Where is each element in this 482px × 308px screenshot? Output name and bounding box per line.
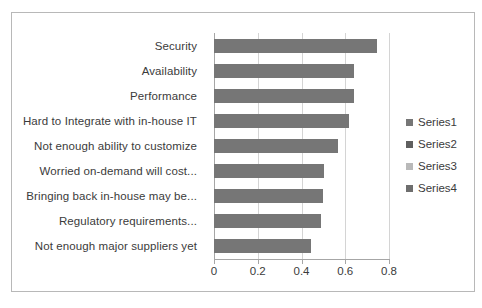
category-label: Bringing back in-house may be...	[12, 184, 203, 209]
value-axis-ticks	[214, 259, 389, 264]
category-axis: SecurityAvailabilityPerformanceHard to I…	[12, 33, 203, 259]
tick-mark	[258, 259, 259, 264]
bar-row	[214, 133, 389, 158]
category-label: Performance	[12, 83, 203, 108]
bar	[214, 189, 323, 203]
legend-item[interactable]: Series4	[406, 177, 474, 199]
tick-mark	[302, 259, 303, 264]
bar-row	[214, 209, 389, 234]
value-axis-tick-label: 0.8	[381, 265, 397, 277]
chart-plot-wrapper: SecurityAvailabilityPerformanceHard to I…	[12, 13, 474, 291]
category-label: Not enough major suppliers yet	[12, 234, 203, 259]
legend-item[interactable]: Series1	[406, 111, 474, 133]
legend-label: Series4	[418, 182, 457, 194]
bar	[214, 214, 321, 228]
value-axis-tick-label: 0.2	[250, 265, 266, 277]
bar-row	[214, 108, 389, 133]
legend-swatch-icon	[406, 163, 413, 170]
bar	[214, 164, 324, 178]
bar	[214, 39, 377, 53]
category-label: Hard to Integrate with in-house IT	[12, 108, 203, 133]
legend-item[interactable]: Series2	[406, 133, 474, 155]
legend-label: Series3	[418, 160, 457, 172]
category-label: Security	[12, 33, 203, 58]
legend-label: Series1	[418, 116, 457, 128]
bar	[214, 114, 349, 128]
bar	[214, 64, 354, 78]
bar-row	[214, 33, 389, 58]
value-axis-labels: 00.20.40.60.8	[214, 265, 389, 283]
bar	[214, 239, 311, 253]
tick-mark	[389, 259, 390, 264]
legend-label: Series2	[418, 138, 457, 150]
bar-row	[214, 159, 389, 184]
legend-swatch-icon	[406, 119, 413, 126]
bar	[214, 139, 338, 153]
bar-row	[214, 83, 389, 108]
value-axis-tick-label: 0.4	[294, 265, 310, 277]
plot-area	[214, 33, 389, 259]
bar	[214, 89, 354, 103]
legend-swatch-icon	[406, 141, 413, 148]
category-label: Worried on-demand will cost...	[12, 159, 203, 184]
bar-row	[214, 58, 389, 83]
bar-row	[214, 184, 389, 209]
chart-legend: Series1Series2Series3Series4	[406, 111, 474, 199]
chart-frame: SecurityAvailabilityPerformanceHard to I…	[11, 12, 475, 292]
tick-mark	[345, 259, 346, 264]
tick-mark	[214, 259, 215, 264]
legend-swatch-icon	[406, 185, 413, 192]
value-axis-tick-label: 0	[211, 265, 217, 277]
bar-row	[214, 234, 389, 259]
bar-series	[214, 33, 389, 259]
category-label: Regulatory requirements...	[12, 209, 203, 234]
legend-item[interactable]: Series3	[406, 155, 474, 177]
gridline	[389, 33, 390, 259]
value-axis-tick-label: 0.6	[337, 265, 353, 277]
category-label: Availability	[12, 58, 203, 83]
category-label: Not enough ability to customize	[12, 133, 203, 158]
